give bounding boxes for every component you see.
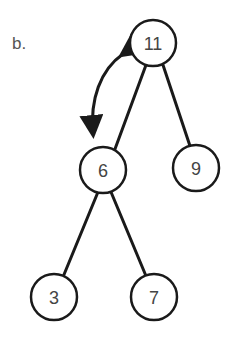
tree-node-7: 7 [131, 274, 177, 320]
node-value: 3 [49, 288, 59, 308]
tree-node-11: 11 [130, 20, 176, 66]
edge-11-6 [115, 65, 146, 149]
node-value: 11 [144, 34, 163, 54]
edge-6-7 [111, 192, 146, 276]
edge-6-3 [63, 192, 98, 277]
tree-node-3: 3 [31, 274, 77, 320]
node-value: 6 [98, 161, 108, 181]
node-value: 9 [191, 159, 201, 179]
edge-11-9 [163, 65, 190, 146]
node-value: 7 [149, 288, 159, 308]
tree-node-6: 6 [80, 147, 126, 193]
tree-node-9: 9 [173, 145, 219, 191]
swap-arrow-icon [92, 54, 123, 133]
binary-tree-diagram: 11 6 9 3 7 [0, 0, 236, 337]
